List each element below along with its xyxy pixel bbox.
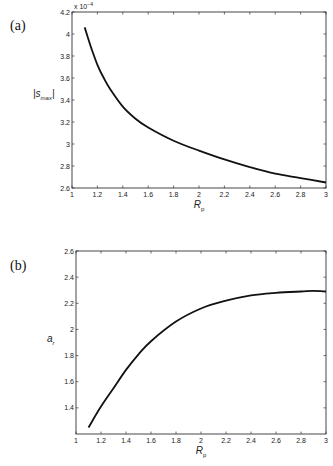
x-tick-label: 1.6 [146,437,156,444]
x-tick-label: 1.4 [121,437,131,444]
y-tick-label: 2.2 [64,300,74,307]
y-tick-label: 4 [66,31,70,38]
y-tick-label: 3 [66,141,70,148]
plot-frame [72,12,326,188]
y-tick-label: 4.2 [60,9,70,16]
y-multiplier-label: x 10−4 [74,1,93,10]
x-tick-label: 1.4 [118,191,128,198]
x-tick-label: 2 [197,191,201,198]
chart-panel-b: 11.21.41.61.822.22.42.62.831.41.61.822.2… [47,248,328,459]
x-tick-label: 2.2 [220,191,230,198]
x-tick-label: 1.2 [96,437,106,444]
y-tick-label: 2.4 [64,274,74,281]
x-tick-label: 3 [324,191,328,198]
x-tick-label: 2.2 [221,437,231,444]
chart-panel-a: 11.21.41.61.822.22.42.62.832.62.833.23.4… [33,1,328,212]
y-axis-label: ar [47,333,56,346]
y-tick-label: 2.6 [64,248,74,255]
y-tick-label: 3.8 [60,53,70,60]
y-axis-label: |smax| [33,88,55,101]
x-tick-label: 2.6 [271,437,281,444]
x-tick-label: 1 [74,437,78,444]
data-curve [89,291,327,428]
x-tick-label: 1.8 [171,437,181,444]
x-tick-label: 2.6 [270,191,280,198]
x-axis-label: Rp [194,199,205,212]
y-tick-label: 3.6 [60,75,70,82]
y-tick-label: 3.2 [60,119,70,126]
x-tick-label: 1.6 [143,191,153,198]
y-tick-label: 2.8 [60,163,70,170]
x-tick-label: 2 [199,437,203,444]
x-tick-label: 1.2 [93,191,103,198]
y-tick-label: 1.6 [64,378,74,385]
y-tick-label: 1.4 [64,404,74,411]
chart-canvas: 11.21.41.61.822.22.42.62.832.62.833.23.4… [0,0,333,466]
x-tick-label: 1 [70,191,74,198]
y-tick-label: 2 [70,326,74,333]
x-tick-label: 1.8 [169,191,179,198]
x-tick-label: 2.4 [245,191,255,198]
data-curve [85,27,326,182]
y-tick-label: 1.8 [64,352,74,359]
x-tick-label: 3 [324,437,328,444]
plot-frame [76,251,326,434]
x-tick-label: 2.4 [246,437,256,444]
y-tick-label: 3.4 [60,97,70,104]
y-tick-label: 2.6 [60,185,70,192]
x-axis-label: Rp [196,445,207,458]
x-tick-label: 2.8 [296,191,306,198]
x-tick-label: 2.8 [296,437,306,444]
